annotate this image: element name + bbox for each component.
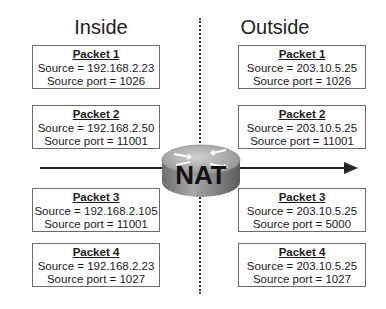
- packet-port: Source port = 11001: [33, 135, 159, 149]
- packet-title: Packet 4: [33, 246, 159, 260]
- packet-port: Source port = 5000: [239, 218, 365, 232]
- inside-packet-4: Packet 4 Source = 192.168.2.23 Source po…: [32, 243, 160, 287]
- outside-packet-4: Packet 4 Source = 203.10.5.25 Source por…: [238, 243, 366, 287]
- outside-packet-1: Packet 1 Source = 203.10.5.25 Source por…: [238, 45, 366, 89]
- arrow-head-icon: [344, 162, 358, 174]
- packet-title: Packet 1: [33, 48, 159, 62]
- packet-source: Source = 203.10.5.25: [239, 260, 365, 274]
- packet-title: Packet 3: [33, 191, 159, 205]
- packet-title: Packet 1: [239, 48, 365, 62]
- nat-router-icon: NAT: [160, 140, 242, 200]
- outside-packet-2: Packet 2 Source = 203.10.5.25 Source por…: [238, 105, 366, 149]
- outside-packet-3: Packet 3 Source = 203.10.5.25 Source por…: [238, 188, 366, 232]
- packet-port: Source port = 11001: [33, 218, 159, 232]
- inside-heading: Inside: [31, 16, 171, 39]
- packet-port: Source port = 1027: [239, 273, 365, 287]
- packet-source: Source = 192.168.2.105: [33, 205, 159, 219]
- packet-port: Source port = 1026: [33, 75, 159, 89]
- inside-packet-1: Packet 1 Source = 192.168.2.23 Source po…: [32, 45, 160, 89]
- packet-port: Source port = 1027: [33, 273, 159, 287]
- nat-label: NAT: [175, 160, 227, 190]
- inside-packet-3: Packet 3 Source = 192.168.2.105 Source p…: [32, 188, 160, 232]
- packet-title: Packet 4: [239, 246, 365, 260]
- packet-title: Packet 2: [33, 108, 159, 122]
- packet-source: Source = 203.10.5.25: [239, 62, 365, 76]
- packet-port: Source port = 1026: [239, 75, 365, 89]
- inside-packet-2: Packet 2 Source = 192.168.2.50 Source po…: [32, 105, 160, 149]
- packet-source: Source = 192.168.2.50: [33, 122, 159, 136]
- packet-title: Packet 3: [239, 191, 365, 205]
- packet-source: Source = 192.168.2.23: [33, 62, 159, 76]
- outside-heading: Outside: [205, 16, 345, 39]
- packet-source: Source = 192.168.2.23: [33, 260, 159, 274]
- packet-source: Source = 203.10.5.25: [239, 122, 365, 136]
- router-svg-icon: NAT: [160, 140, 242, 200]
- packet-title: Packet 2: [239, 108, 365, 122]
- packet-port: Source port = 11001: [239, 135, 365, 149]
- packet-source: Source = 203.10.5.25: [239, 205, 365, 219]
